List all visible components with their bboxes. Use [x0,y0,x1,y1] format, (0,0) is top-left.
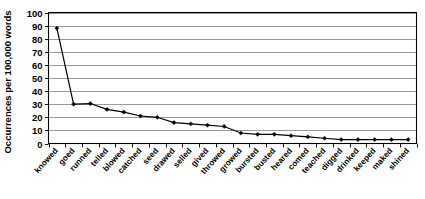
data-point [255,132,259,136]
data-point [356,137,360,141]
data-point [71,102,75,106]
y-axis-title-text: Occurrences per 100,000 words [2,10,13,153]
x-tick-labels: knowedgoedrunnedtelledblowedcatchedseedd… [33,146,411,176]
data-point [306,135,310,139]
y-tick-label: 60 [32,60,43,71]
y-tick-label: 0 [37,139,42,150]
data-point [339,137,343,141]
chart-figure: Occurrences per 100,000 words 0102030405… [0,0,425,199]
data-point [122,110,126,114]
data-point [322,136,326,140]
y-tick-label: 40 [32,86,43,97]
data-point [189,122,193,126]
data-series [55,26,410,142]
y-tick-label: 90 [32,21,43,32]
y-tick-label: 20 [32,112,43,123]
data-point [406,137,410,141]
data-point [373,137,377,141]
gridlines [49,14,417,131]
data-point [389,137,393,141]
y-axis-title: Occurrences per 100,000 words [2,10,13,153]
y-tick-label: 30 [32,99,43,110]
data-point [272,132,276,136]
data-point [105,107,109,111]
y-tick-labels: 0102030405060708090100 [27,8,43,150]
data-point [155,115,159,119]
series-line [57,28,408,139]
data-point [239,131,243,135]
data-point [88,101,92,105]
y-tick-label: 10 [32,125,43,136]
y-tick-label: 70 [32,47,43,58]
y-tick-label: 50 [32,73,43,84]
data-point [222,124,226,128]
data-point [289,134,293,138]
data-point [205,123,209,127]
plot-area-border [49,13,417,144]
data-point [172,120,176,124]
y-tick-label: 80 [32,34,43,45]
y-tick-label: 100 [27,8,43,19]
line-chart: Occurrences per 100,000 words 0102030405… [0,0,425,199]
x-tick-marks [50,144,418,148]
x-tick-label: selled [171,146,193,169]
